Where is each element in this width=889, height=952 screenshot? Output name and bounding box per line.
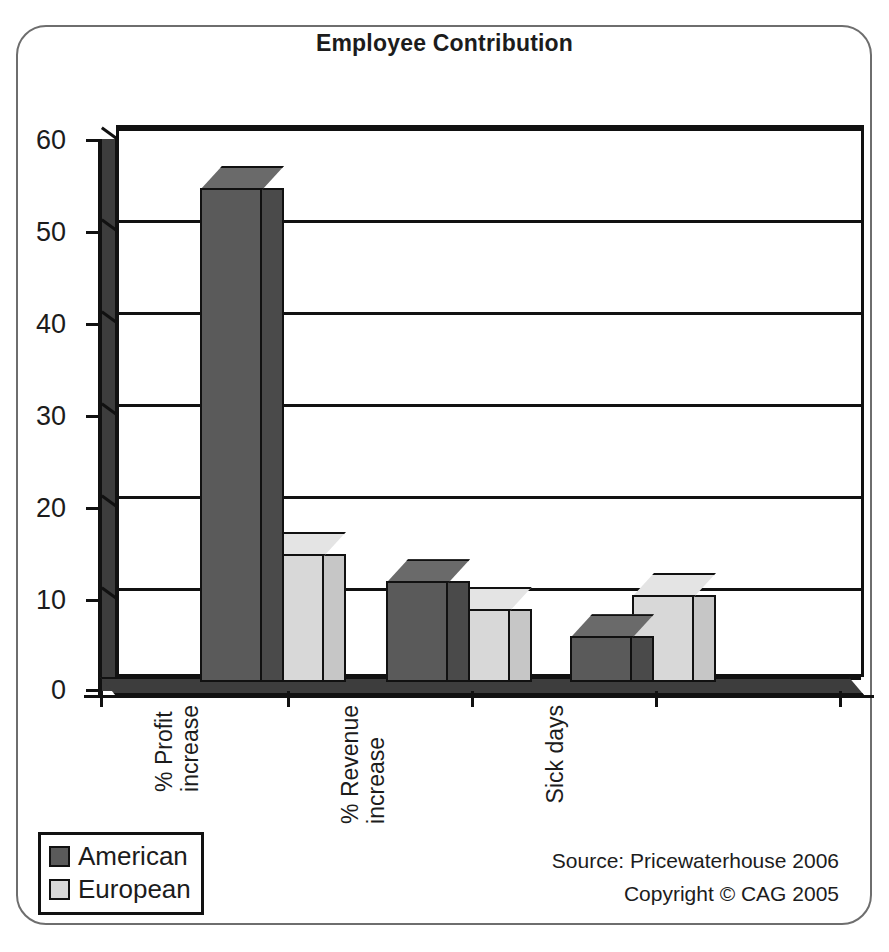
x-category-label-profit-increase: % Profit increase bbox=[152, 705, 204, 792]
y-tick-label-20: 20 bbox=[36, 493, 84, 524]
y-tick-20 bbox=[86, 507, 100, 510]
credits-block: Source: Pricewaterhouse 2006 Copyright ©… bbox=[552, 845, 839, 910]
bar-face bbox=[570, 636, 632, 682]
bar-american-sick-days[interactable] bbox=[570, 636, 632, 682]
bar-face bbox=[386, 581, 448, 682]
legend-item-european[interactable]: European bbox=[49, 873, 191, 906]
y-tick-10 bbox=[86, 599, 100, 602]
y-tick-label-10: 10 bbox=[36, 585, 84, 616]
chart-legend: American European bbox=[38, 832, 204, 915]
y-tick-label-0: 0 bbox=[51, 675, 84, 706]
legend-swatch-american bbox=[49, 846, 70, 867]
x-tick-4 bbox=[839, 691, 842, 707]
y-tick-0 bbox=[86, 689, 100, 692]
legend-item-american[interactable]: American bbox=[49, 840, 191, 873]
legend-label-american: American bbox=[78, 841, 188, 872]
plot-area: 60 50 40 30 20 10 0 bbox=[84, 125, 874, 700]
bar-side bbox=[324, 554, 346, 682]
y-tick-label-30: 30 bbox=[36, 401, 84, 432]
y-tick-60 bbox=[86, 139, 100, 142]
gridline-60 bbox=[119, 128, 861, 131]
bar-side bbox=[632, 636, 654, 682]
y-tick-30 bbox=[86, 415, 100, 418]
y-tick-label-60: 60 bbox=[36, 125, 84, 156]
source-text: Source: Pricewaterhouse 2006 bbox=[552, 845, 839, 878]
bar-side bbox=[510, 609, 532, 682]
bar-side bbox=[262, 188, 284, 682]
legend-swatch-european bbox=[49, 879, 70, 900]
y-tick-label-40: 40 bbox=[36, 309, 84, 340]
x-category-label-revenue-increase: % Revenue increase bbox=[338, 705, 390, 824]
x-tick-0 bbox=[100, 691, 103, 707]
x-category-label-sick-days: Sick days bbox=[543, 705, 569, 803]
bar-american-profit-increase[interactable] bbox=[200, 188, 262, 682]
y-tick-label-50: 50 bbox=[36, 217, 84, 248]
y-tick-50 bbox=[86, 231, 100, 234]
bar-face bbox=[200, 188, 262, 682]
copyright-text: Copyright © CAG 2005 bbox=[552, 878, 839, 911]
y-tick-40 bbox=[86, 323, 100, 326]
bar-side bbox=[448, 581, 470, 682]
bar-american-revenue-increase[interactable] bbox=[386, 581, 448, 682]
x-tick-2 bbox=[471, 691, 474, 707]
plot-floor-front-edge bbox=[84, 695, 874, 698]
bar-side bbox=[694, 595, 716, 682]
x-tick-1 bbox=[287, 691, 290, 707]
legend-label-european: European bbox=[78, 874, 191, 905]
chart-title: Employee Contribution bbox=[0, 30, 889, 57]
x-tick-3 bbox=[655, 691, 658, 707]
